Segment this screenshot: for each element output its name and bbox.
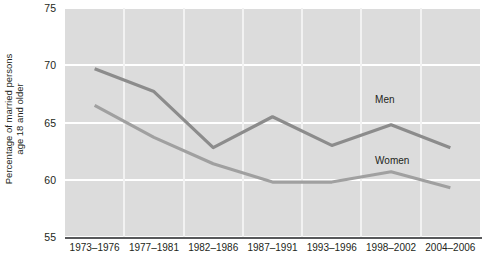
y-tick-label: 55 [0,231,56,243]
chart-figure: Percentage of married persons age 18 and… [0,0,502,264]
series-lines [65,8,480,237]
plot-area [65,8,480,237]
x-tick-label: 2004–2006 [405,241,495,254]
y-tick-label: 75 [0,2,56,14]
series-label-women: Women [375,155,409,167]
y-tick-label: 70 [0,59,56,71]
y-tick-label: 60 [0,174,56,186]
y-tick-label: 65 [0,117,56,129]
series-label-men: Men [375,94,394,106]
x-axis-line [65,237,482,239]
